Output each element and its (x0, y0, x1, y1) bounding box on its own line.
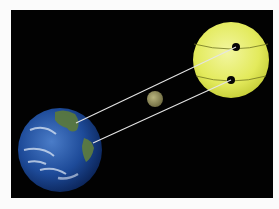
sun (193, 22, 269, 98)
moon (147, 91, 163, 107)
earth (18, 108, 102, 192)
eclipse-diagram (0, 0, 279, 209)
